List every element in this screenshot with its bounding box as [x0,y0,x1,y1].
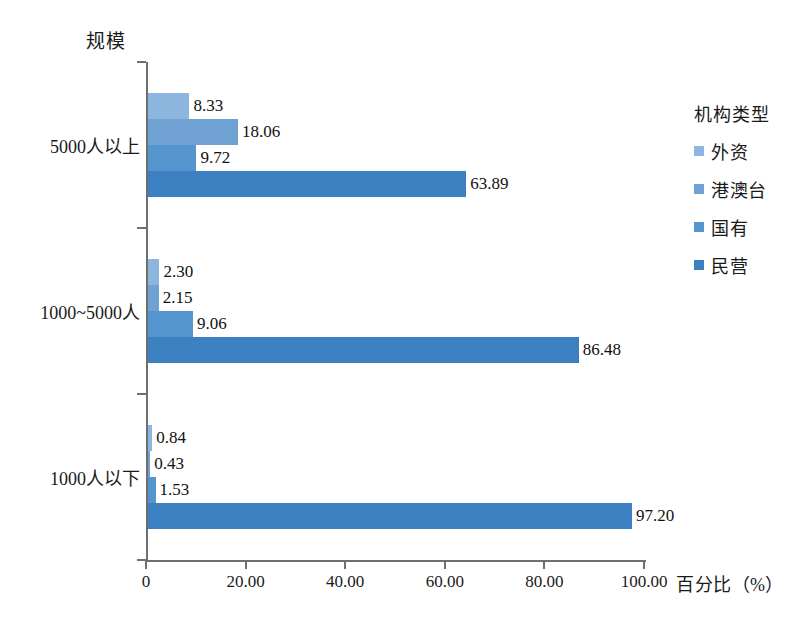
bar-value-label: 2.15 [163,288,193,308]
legend-item-label: 国有 [711,214,748,240]
x-axis-tick-label: 40.00 [326,572,364,592]
x-axis-tick-label: 80.00 [525,572,563,592]
x-axis-tick-label: 0 [142,572,151,592]
x-axis-tick [643,560,645,569]
bar-value-label: 0.84 [156,428,186,448]
x-axis-tick-label: 100.00 [621,572,668,592]
x-axis-tick [245,560,247,569]
legend-swatch-icon [694,146,704,156]
legend-item[interactable]: 国有 [694,214,804,240]
legend-item[interactable]: 外资 [694,138,804,164]
bar-value-label: 1.53 [160,480,190,500]
legend: 机构类型 外资港澳台国有民营 [694,100,804,290]
bar [148,259,159,285]
y-axis-tick [137,61,146,63]
x-axis-title: 百分比（%） [676,570,784,596]
legend-item-label: 外资 [711,138,748,164]
legend-swatch-icon [694,260,704,270]
bar [148,451,150,477]
bar-value-label: 9.72 [200,148,230,168]
category-label: 5000人以上 [50,132,140,158]
bar [148,311,193,337]
bar [148,285,159,311]
legend-items: 外资港澳台国有民营 [694,138,804,278]
legend-item-label: 民营 [711,252,748,278]
legend-title: 机构类型 [694,100,804,126]
bar [148,425,152,451]
bar [148,503,632,529]
y-axis-tick [137,227,146,229]
category-label: 1000人以下 [50,464,140,490]
bar-value-label: 0.43 [154,454,184,474]
y-axis-title: 规模 [86,26,126,53]
legend-swatch-icon [694,222,704,232]
bar [148,145,196,171]
bar-value-label: 18.06 [242,122,280,142]
bar-value-label: 63.89 [470,174,508,194]
x-axis-line [146,560,646,562]
legend-item[interactable]: 港澳台 [694,176,804,202]
y-axis-tick [137,393,146,395]
bar [148,119,238,145]
category-label: 1000~5000人 [40,298,140,324]
bar [148,93,189,119]
bar-value-label: 9.06 [197,314,227,334]
legend-item[interactable]: 民营 [694,252,804,278]
x-axis-tick-label: 20.00 [226,572,264,592]
bar-value-label: 86.48 [583,340,621,360]
x-axis-tick [444,560,446,569]
bar [148,337,579,363]
x-axis-tick [344,560,346,569]
x-axis-tick [543,560,545,569]
bar-value-label: 97.20 [636,506,674,526]
x-axis-tick [145,560,147,569]
bar [148,171,466,197]
bar [148,477,156,503]
legend-swatch-icon [694,184,704,194]
legend-item-label: 港澳台 [711,176,767,202]
bar-value-label: 8.33 [193,96,223,116]
bar-chart: 规模 020.0040.0060.0080.00100.00 5000人以上10… [0,0,804,624]
x-axis-tick-label: 60.00 [426,572,464,592]
bar-value-label: 2.30 [163,262,193,282]
